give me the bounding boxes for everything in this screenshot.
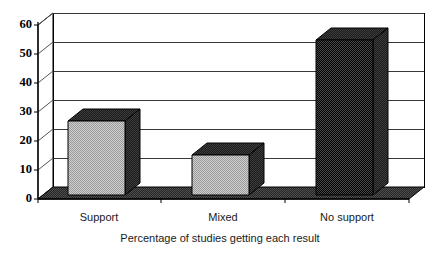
bar-support-front xyxy=(68,121,125,195)
bar-no-support-front xyxy=(316,40,373,195)
bar-no-support[interactable] xyxy=(316,28,388,195)
category-axis xyxy=(38,199,409,203)
y-tick-label-30: 30 xyxy=(20,104,33,118)
x-axis-title: Percentage of studies getting each resul… xyxy=(120,232,319,244)
category-axis-labels: Support Mixed No support xyxy=(80,211,374,223)
bar-mixed[interactable] xyxy=(192,143,264,195)
chart-page: 60 50 40 30 20 10 0 xyxy=(0,0,439,254)
bar-mixed-front xyxy=(192,155,249,195)
x-tick-label-support: Support xyxy=(80,211,119,223)
y-tick-label-40: 40 xyxy=(20,75,33,89)
y-tick-label-10: 10 xyxy=(20,162,33,176)
bar-no-support-side xyxy=(373,28,388,195)
y-tick-label-20: 20 xyxy=(20,133,33,147)
value-axis-labels: 60 50 40 30 20 10 0 xyxy=(20,17,33,205)
bar-support[interactable] xyxy=(68,109,140,195)
y-tick-label-50: 50 xyxy=(20,46,33,60)
x-tick-label-mixed: Mixed xyxy=(208,211,237,223)
y-tick-label-60: 60 xyxy=(20,17,33,31)
y-tick-label-0: 0 xyxy=(26,191,32,205)
bar-support-side xyxy=(125,109,140,195)
bar-chart-3d: 60 50 40 30 20 10 0 xyxy=(0,0,439,254)
x-tick-label-no-support: No support xyxy=(320,211,374,223)
value-axis xyxy=(34,22,38,199)
plot-left-wall xyxy=(38,13,53,199)
